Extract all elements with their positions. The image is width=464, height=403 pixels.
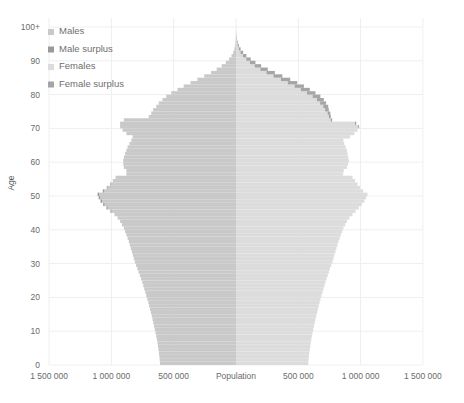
legend-swatch-males — [48, 29, 54, 35]
bar-male — [151, 311, 236, 314]
bar-male — [116, 176, 236, 179]
bar-male — [149, 115, 236, 118]
bar-male — [144, 287, 236, 290]
bar-male — [129, 240, 236, 243]
bar-male — [128, 237, 236, 240]
bar-female — [236, 78, 281, 81]
y-tick-label: 80 — [31, 90, 41, 100]
bar-female — [236, 226, 343, 229]
bar-female — [236, 95, 313, 98]
bar-female — [236, 358, 309, 361]
bar-female — [236, 230, 342, 233]
bar-male — [217, 68, 236, 71]
bar-male — [159, 355, 236, 358]
bar-male — [147, 297, 236, 300]
bar-male — [124, 226, 236, 229]
bar-female — [236, 182, 357, 185]
bar-female — [236, 243, 337, 246]
legend-swatch-male-surplus — [48, 47, 54, 53]
bar-male — [108, 206, 236, 209]
bar-female — [236, 132, 354, 135]
bar-female — [236, 274, 328, 277]
bar-male — [126, 233, 236, 236]
bar-female-surplus — [355, 122, 356, 125]
bars-females — [236, 24, 367, 365]
bar-female-surplus — [323, 105, 328, 108]
bar-male — [137, 267, 236, 270]
bar-male — [131, 139, 236, 142]
bar-male — [126, 149, 236, 152]
bar-male — [130, 243, 236, 246]
bar-male-surplus — [99, 196, 100, 199]
bar-female — [236, 44, 238, 47]
bar-male — [152, 314, 236, 317]
bar-female — [236, 172, 343, 175]
bar-male — [115, 213, 236, 216]
bar-male — [100, 196, 236, 199]
x-axis-title: Population — [216, 371, 256, 381]
bar-female — [236, 257, 333, 260]
bar-male — [232, 54, 236, 57]
bar-female-surplus — [250, 61, 255, 64]
y-tick-label: 90 — [31, 56, 41, 66]
bar-female — [236, 351, 309, 354]
bar-male — [123, 128, 236, 131]
bar-female — [236, 176, 353, 179]
bar-female — [236, 247, 336, 250]
bar-female — [236, 71, 267, 74]
bar-female — [236, 362, 308, 365]
bar-female-surplus — [243, 54, 246, 57]
bar-male — [124, 155, 236, 158]
bar-female — [236, 189, 363, 192]
bar-female — [236, 81, 288, 84]
bar-female — [236, 61, 250, 64]
bar-male — [133, 135, 236, 138]
bar-female — [236, 348, 310, 351]
bar-female-surplus — [288, 81, 297, 84]
bar-female — [236, 162, 348, 165]
bar-female — [236, 331, 313, 334]
bar-female — [236, 260, 332, 263]
bar-female-surplus — [301, 88, 310, 91]
bar-female-surplus — [320, 101, 326, 104]
y-tick-label: 40 — [31, 225, 41, 235]
y-tick-label: 70 — [31, 123, 41, 133]
bar-male — [120, 122, 236, 125]
bar-female-surplus — [281, 78, 290, 81]
bar-male — [125, 152, 236, 155]
bar-female — [236, 84, 295, 87]
bar-female — [236, 328, 313, 331]
bar-female-surplus — [313, 95, 321, 98]
x-tick-label: 500 000 — [158, 371, 189, 381]
bar-female — [236, 142, 344, 145]
legend-label-males: Males — [59, 25, 85, 36]
bar-female — [236, 223, 345, 226]
bar-female — [236, 169, 344, 172]
bar-male-surplus — [98, 193, 99, 196]
bar-male — [129, 142, 236, 145]
pyramid-plot-area: 0102030405060708090100+ 1 500 0001 000 0… — [0, 0, 464, 403]
bar-female — [236, 341, 311, 344]
bar-male — [128, 145, 236, 148]
bar-male — [226, 61, 236, 64]
bar-female-surplus — [328, 112, 331, 115]
y-tick-label: 50 — [31, 191, 41, 201]
bar-male — [184, 84, 236, 87]
bar-female-surplus — [238, 44, 239, 47]
bar-female — [236, 264, 331, 267]
bar-female — [236, 321, 315, 324]
bar-female — [236, 294, 321, 297]
bar-male — [204, 74, 236, 77]
legend-label-female-surplus: Female surplus — [59, 78, 124, 89]
bar-female — [236, 135, 350, 138]
bar-male — [132, 250, 236, 253]
bar-male — [123, 159, 236, 162]
bar-female-surplus — [246, 57, 250, 60]
bar-female — [236, 308, 318, 311]
bar-female — [236, 68, 260, 71]
x-tick-label: 500 000 — [283, 371, 314, 381]
bar-female — [236, 345, 310, 348]
bar-male — [139, 270, 236, 273]
bar-male — [158, 345, 236, 348]
bar-male — [171, 91, 236, 94]
